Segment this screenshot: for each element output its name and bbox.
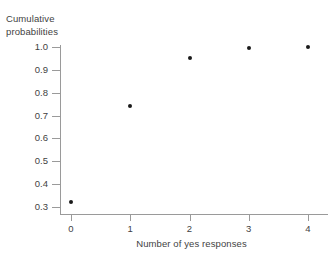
x-tick-mark <box>190 214 191 221</box>
data-point <box>128 104 132 108</box>
y-tick-label: 1.0 <box>20 42 48 52</box>
y-tick-mark <box>52 184 60 185</box>
y-tick-label-text: 0.6 <box>22 133 48 143</box>
y-tick-mark <box>52 207 60 208</box>
y-tick-label: 0.9 <box>20 65 48 75</box>
y-tick-label: 0.5 <box>20 156 48 166</box>
y-tick-label: 0.7 <box>20 111 48 121</box>
y-tick-label-text: 0.4 <box>22 179 48 189</box>
y-tick-label-text: 0.9 <box>22 65 48 75</box>
x-tick-mark <box>249 214 250 221</box>
data-point <box>247 46 251 50</box>
y-tick-label-text: 0.5 <box>22 156 48 166</box>
y-tick-mark <box>52 47 60 48</box>
y-axis-title: Cumulative probabilities <box>6 12 96 38</box>
x-tick-label: 1 <box>120 223 140 234</box>
x-tick-mark <box>308 214 309 221</box>
x-axis-title: Number of yes responses <box>0 238 335 249</box>
y-tick-mark <box>52 116 60 117</box>
x-tick-label: 2 <box>180 223 200 234</box>
y-tick-mark <box>52 161 60 162</box>
y-tick-label-text: 0.3 <box>22 202 48 212</box>
y-tick-label: 0.3 <box>20 202 48 212</box>
x-axis-title-text: Number of yes responses <box>136 238 247 249</box>
scatter-chart: Cumulative probabilities 0.30.40.50.60.7… <box>0 0 335 260</box>
y-axis-line <box>60 45 61 215</box>
y-tick-label-text: 0.7 <box>22 111 48 121</box>
y-tick-label-text: 1.0 <box>22 42 48 52</box>
data-point <box>69 200 73 204</box>
y-tick-label-text: 0.8 <box>22 88 48 98</box>
data-point <box>306 45 310 49</box>
y-tick-mark <box>52 138 60 139</box>
x-tick-label: 3 <box>239 223 259 234</box>
y-tick-mark <box>52 70 60 71</box>
y-tick-label: 0.8 <box>20 88 48 98</box>
x-axis-line <box>60 214 328 215</box>
x-tick-mark <box>130 214 131 221</box>
data-point <box>188 56 192 60</box>
x-tick-label: 0 <box>61 223 81 234</box>
x-tick-label: 4 <box>298 223 318 234</box>
y-tick-label: 0.6 <box>20 133 48 143</box>
x-tick-mark <box>71 214 72 221</box>
y-tick-mark <box>52 93 60 94</box>
y-tick-label: 0.4 <box>20 179 48 189</box>
